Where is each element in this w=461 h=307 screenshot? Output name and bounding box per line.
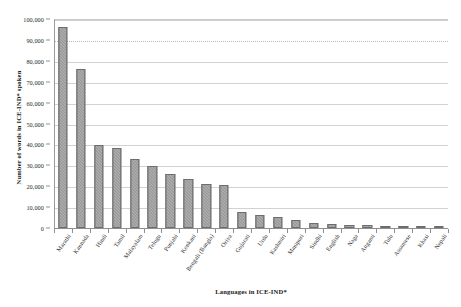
- bar[interactable]: [434, 226, 443, 228]
- bar[interactable]: [273, 217, 282, 228]
- y-tick-mark: [46, 144, 50, 145]
- y-tick-label: 50,000: [26, 120, 44, 127]
- bar-slot: [161, 19, 179, 228]
- x-tick-label: Khasi: [417, 233, 430, 248]
- bar-slot: [269, 19, 287, 228]
- x-tick-label: Konkani: [180, 233, 197, 254]
- y-axis: 010,00020,00030,00040,00050,00060,00070,…: [0, 19, 50, 229]
- y-tick-mark: [46, 207, 50, 208]
- y-tick-mark: [46, 102, 50, 103]
- bar[interactable]: [237, 212, 246, 228]
- bar-slot: [90, 19, 108, 228]
- bar[interactable]: [202, 184, 211, 228]
- y-tick-mark: [46, 19, 50, 20]
- bar-slot: [197, 19, 215, 228]
- bar-slot: [358, 19, 376, 228]
- bar-slot: [412, 19, 430, 228]
- y-tick-mark: [46, 228, 50, 229]
- y-tick-mark: [46, 81, 50, 82]
- bar[interactable]: [345, 225, 354, 228]
- bar-slot: [108, 19, 126, 228]
- y-tick-label: 10,000: [26, 204, 44, 211]
- x-tick-label: Telugu: [146, 233, 161, 251]
- x-tick-label: Urdu: [257, 233, 269, 247]
- bar[interactable]: [381, 226, 390, 228]
- bar-slot: [376, 19, 394, 228]
- bar-slot: [341, 19, 359, 228]
- y-axis-title: Number of words in ICE-IND* spoken: [15, 48, 22, 208]
- bar-slot: [305, 19, 323, 228]
- x-tick-label: Punjabi: [163, 233, 179, 252]
- x-axis-title: Languages in ICE-IND*: [54, 288, 448, 295]
- x-tick-label: Naga: [346, 233, 359, 247]
- x-tick-label: Assamese: [393, 233, 412, 257]
- bar[interactable]: [94, 145, 103, 228]
- bar-slot: [251, 19, 269, 228]
- y-tick-label: 70,000: [26, 78, 44, 85]
- bar[interactable]: [112, 148, 121, 228]
- x-tick-label: Kashmiri: [268, 233, 286, 256]
- bar[interactable]: [363, 225, 372, 228]
- x-tick-label: Tamil: [112, 233, 125, 248]
- y-tick-label: 20,000: [26, 183, 44, 190]
- x-tick-label: Tulu: [383, 233, 395, 246]
- bar-slot: [215, 19, 233, 228]
- bar-slot: [394, 19, 412, 228]
- bar-slot: [323, 19, 341, 228]
- x-tick-label: Nepali: [433, 233, 448, 250]
- y-tick-label: 80,000: [26, 57, 44, 64]
- bar-slot: [233, 19, 251, 228]
- bar-slot: [126, 19, 144, 228]
- y-tick-mark: [46, 186, 50, 187]
- x-tick-label: Manipuri: [286, 233, 304, 256]
- bar[interactable]: [166, 174, 175, 228]
- y-tick-mark: [46, 39, 50, 40]
- bar-slot: [54, 19, 72, 228]
- y-tick-label: 30,000: [26, 162, 44, 169]
- bar[interactable]: [327, 224, 336, 228]
- bar-chart: 010,00020,00030,00040,00050,00060,00070,…: [0, 0, 461, 307]
- x-tick-label: English: [324, 233, 340, 252]
- bar-slot: [179, 19, 197, 228]
- x-tick-label: Marathi: [55, 233, 71, 253]
- y-tick-label: 0: [41, 225, 44, 232]
- y-tick-mark: [46, 165, 50, 166]
- bar[interactable]: [291, 220, 300, 228]
- y-tick-label: 90,000: [26, 36, 44, 43]
- x-tick-mark: [448, 229, 449, 233]
- bar-slot: [287, 19, 305, 228]
- bar-slot: [144, 19, 162, 228]
- bar[interactable]: [309, 223, 318, 228]
- bar[interactable]: [255, 215, 264, 228]
- bar[interactable]: [184, 179, 193, 228]
- y-tick-mark: [46, 123, 50, 124]
- y-tick-mark: [46, 60, 50, 61]
- x-tick-label: Oriya: [220, 233, 233, 248]
- y-tick-label: 60,000: [26, 99, 44, 106]
- y-tick-label: 40,000: [26, 141, 44, 148]
- bar[interactable]: [130, 159, 139, 228]
- bar[interactable]: [58, 27, 67, 228]
- x-tick-label: Hindi: [95, 233, 108, 248]
- y-tick-label: 100,000: [23, 16, 44, 23]
- x-axis-labels: MarathiKannadaHindiTamilMalayalamTeluguP…: [54, 233, 448, 293]
- bar[interactable]: [399, 226, 408, 228]
- x-tick-label: Angami: [360, 233, 377, 253]
- bar-slot: [430, 19, 448, 228]
- bar[interactable]: [219, 185, 228, 228]
- bars-layer: [54, 19, 448, 228]
- bar-slot: [72, 19, 90, 228]
- bar[interactable]: [148, 166, 157, 228]
- bar[interactable]: [416, 226, 425, 228]
- x-tick-label: Gujarati: [234, 233, 251, 253]
- x-tick-label: Kannada: [72, 233, 90, 255]
- bar[interactable]: [76, 69, 85, 228]
- x-tick-label: Sindhi: [308, 233, 322, 250]
